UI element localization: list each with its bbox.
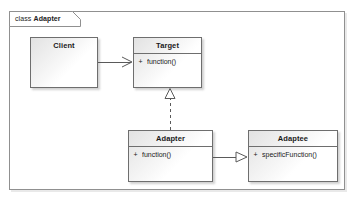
class-name-client: Client — [31, 38, 97, 53]
class-box-client[interactable]: Client — [30, 37, 98, 88]
operation-signature: function() — [142, 149, 212, 161]
diagram-kind-label: class — [15, 15, 31, 22]
diagram-title-label: class Adapter — [15, 13, 61, 25]
diagram-name-label: Adapter — [34, 15, 61, 22]
operations-compartment-adaptee: + specificFunction() — [249, 147, 337, 161]
class-box-target[interactable]: Target + function() — [133, 37, 202, 88]
class-box-adapter[interactable]: Adapter + function() — [128, 130, 213, 182]
visibility-marker: + — [134, 56, 147, 68]
diagram-canvas: class Adapter Client Target + function()… — [0, 0, 355, 210]
operation-row[interactable]: + function() — [129, 149, 212, 161]
class-name-target: Target — [134, 38, 201, 53]
operation-row[interactable]: + function() — [134, 56, 201, 68]
visibility-marker: + — [129, 149, 142, 161]
operation-signature: function() — [147, 56, 201, 68]
operations-compartment-target: + function() — [134, 54, 201, 68]
class-box-adaptee[interactable]: Adaptee + specificFunction() — [248, 130, 338, 182]
operation-row[interactable]: + specificFunction() — [249, 149, 337, 161]
class-name-adaptee: Adaptee — [249, 131, 337, 146]
class-name-adapter: Adapter — [129, 131, 212, 146]
diagram-title-tab[interactable]: class Adapter — [9, 11, 81, 27]
operations-compartment-adapter: + function() — [129, 147, 212, 161]
operation-signature: specificFunction() — [262, 149, 337, 161]
visibility-marker: + — [249, 149, 262, 161]
